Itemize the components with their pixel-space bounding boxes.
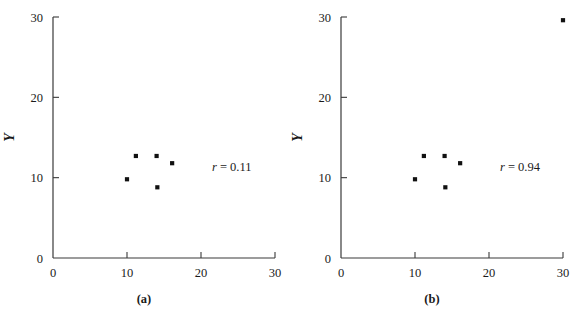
x-tick-label-0: 0 [50,266,56,280]
x-tick-label-20: 20 [195,266,208,280]
y-tick-label-10: 10 [31,171,44,185]
data-point [134,154,138,158]
panel-b-caption: (b) [288,292,576,307]
data-point [422,154,426,158]
data-point [413,177,417,181]
x-tick-label-30: 30 [557,266,570,280]
y-axis-title: Y [2,132,17,142]
data-point [443,154,447,158]
y-tick-label-20: 20 [31,91,44,105]
data-point [170,161,174,165]
data-point [125,177,129,181]
scatterplot-figure: 01020300102030XYr=0.11 (a) 0102030010203… [0,0,577,321]
y-axis-title: Y [290,132,305,142]
data-point [155,185,159,189]
correlation-annotation: r=0.94 [500,160,541,174]
y-tick-label-0: 0 [37,252,43,266]
data-point [458,161,462,165]
y-tick-label-30: 30 [31,11,44,25]
x-tick-label-10: 10 [121,266,134,280]
x-tick-label-20: 20 [483,266,496,280]
panel-a-caption: (a) [0,292,288,307]
x-tick-label-10: 10 [409,266,422,280]
panel-b-plot: 01020300102030XYr=0.94 [288,0,576,290]
correlation-annotation: r=0.11 [212,160,251,174]
data-point [155,154,159,158]
y-tick-label-20: 20 [319,91,332,105]
y-tick-label-30: 30 [319,11,332,25]
panel-b: 01020300102030XYr=0.94 (b) [288,0,576,321]
x-tick-label-0: 0 [338,266,344,280]
x-tick-label-30: 30 [269,266,282,280]
y-tick-label-0: 0 [325,252,331,266]
y-tick-label-10: 10 [319,171,332,185]
data-point [443,185,447,189]
panel-a: 01020300102030XYr=0.11 (a) [0,0,288,321]
data-point [561,18,565,22]
panel-a-plot: 01020300102030XYr=0.11 [0,0,288,290]
